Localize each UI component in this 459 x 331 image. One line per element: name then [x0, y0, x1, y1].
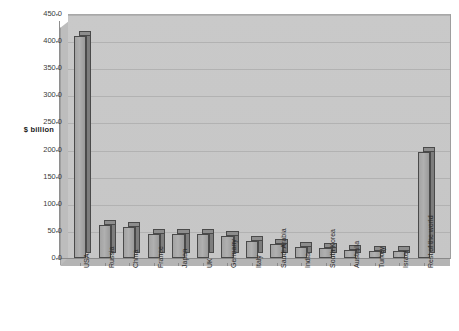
x-tick-mark [252, 263, 253, 266]
x-tick-label: UK [206, 258, 213, 268]
bar-front-face [74, 36, 86, 258]
x-tick-label: South Korea [329, 229, 336, 268]
gridline [68, 151, 450, 152]
bar-top-face [104, 220, 116, 225]
x-tick-mark [399, 263, 400, 266]
bar-column [197, 229, 214, 258]
bar-top-face [226, 231, 238, 236]
y-axis-line [59, 21, 60, 259]
bar-top-face [251, 236, 263, 241]
x-tick-label: Italy [255, 255, 262, 268]
bar-top-face [423, 147, 435, 152]
x-tick-label: Russia [108, 247, 115, 268]
x-tick-label: France [157, 246, 164, 268]
x-tick-mark [424, 263, 425, 266]
x-tick-mark [227, 263, 228, 266]
bar-top-face [153, 229, 165, 234]
y-tick-mark [56, 14, 59, 15]
bar-top-face [128, 222, 140, 227]
bar-top-face [79, 31, 91, 36]
y-tick-mark [56, 258, 59, 259]
bar-front-face [197, 234, 209, 258]
gridline [68, 15, 450, 16]
x-tick-label: Saudi Arabia [280, 228, 287, 268]
x-tick-mark [129, 263, 130, 266]
bar-top-face [202, 229, 214, 234]
bar-column [74, 31, 91, 258]
gridline [68, 96, 450, 97]
bar-top-face [300, 242, 312, 247]
x-tick-label: Germany [230, 239, 237, 268]
x-tick-mark [80, 263, 81, 266]
gridline [68, 178, 450, 179]
x-tick-mark [277, 263, 278, 266]
x-tick-mark [301, 263, 302, 266]
y-tick-mark [56, 231, 59, 232]
gridline [68, 69, 450, 70]
y-tick-mark [56, 204, 59, 205]
x-tick-mark [154, 263, 155, 266]
x-tick-label: Rest of the world [427, 215, 434, 268]
x-tick-label: Australia [353, 241, 360, 268]
x-tick-mark [178, 263, 179, 266]
y-tick-mark [56, 150, 59, 151]
y-tick-mark [56, 41, 59, 42]
x-tick-mark [105, 263, 106, 266]
y-tick-mark [56, 68, 59, 69]
y-tick-mark [56, 177, 59, 178]
x-tick-label: Japan [181, 249, 188, 268]
x-tick-label: India [304, 253, 311, 268]
gridline [68, 42, 450, 43]
x-tick-label: China [132, 250, 139, 268]
x-tick-label: Turkey [378, 247, 385, 268]
x-tick-mark [350, 263, 351, 266]
bar-side-face [86, 31, 91, 253]
bar-chart: $ billion 0.050.0100.0150.0200.0250.0300… [0, 0, 459, 331]
y-tick-mark [56, 122, 59, 123]
x-tick-mark [203, 263, 204, 266]
x-tick-mark [326, 263, 327, 266]
x-tick-label: Israel [402, 251, 409, 268]
gridline [68, 123, 450, 124]
y-tick-mark [56, 95, 59, 96]
x-tick-mark [375, 263, 376, 266]
bar-top-face [177, 229, 189, 234]
x-tick-label: USA [83, 254, 90, 268]
gridline [68, 205, 450, 206]
